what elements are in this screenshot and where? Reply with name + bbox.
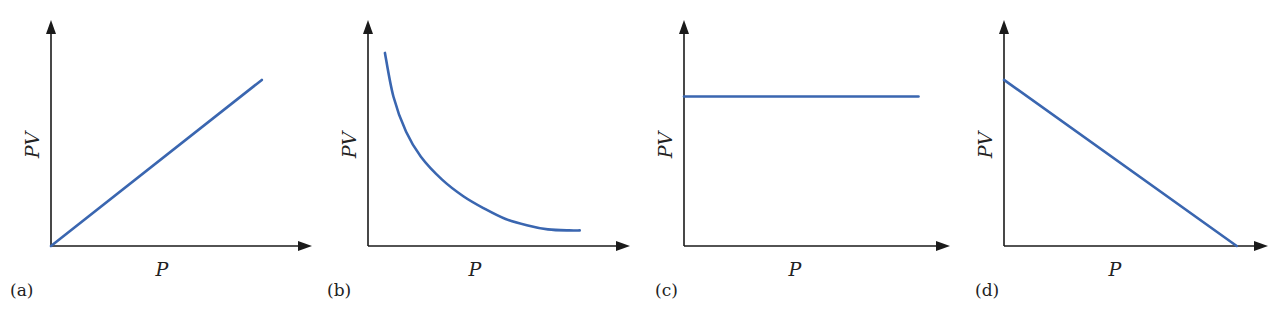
y-axis-label: PV bbox=[654, 129, 676, 159]
x-axis-label: P bbox=[468, 258, 483, 280]
series-line bbox=[1004, 80, 1237, 246]
x-axis-arrow-icon bbox=[1254, 241, 1268, 251]
panel-label: (d) bbox=[975, 280, 999, 300]
panel-b: PPV(b) bbox=[327, 20, 630, 300]
pv-vs-p-figure: PPV(a)PPV(b)PPV(c)PPV(d) bbox=[0, 0, 1282, 314]
panel-d: PPV(d) bbox=[974, 20, 1268, 300]
y-axis-arrow-icon bbox=[46, 20, 56, 34]
y-axis-arrow-icon bbox=[679, 20, 689, 34]
x-axis-arrow-icon bbox=[298, 241, 312, 251]
x-axis-label: P bbox=[788, 258, 803, 280]
y-axis-arrow-icon bbox=[999, 20, 1009, 34]
series-line bbox=[51, 80, 262, 246]
y-axis-label: PV bbox=[974, 129, 996, 159]
y-axis-label: PV bbox=[21, 129, 43, 159]
x-axis-arrow-icon bbox=[936, 241, 950, 251]
panel-a: PPV(a) bbox=[10, 20, 312, 300]
panel-label: (a) bbox=[10, 280, 33, 300]
series-line bbox=[385, 53, 580, 231]
x-axis-arrow-icon bbox=[616, 241, 630, 251]
x-axis-label: P bbox=[155, 258, 170, 280]
x-axis-label: P bbox=[1108, 258, 1123, 280]
y-axis-arrow-icon bbox=[363, 20, 373, 34]
y-axis-label: PV bbox=[338, 129, 360, 159]
panel-c: PPV(c) bbox=[654, 20, 950, 300]
panel-label: (b) bbox=[327, 280, 351, 300]
panel-label: (c) bbox=[655, 280, 678, 300]
